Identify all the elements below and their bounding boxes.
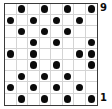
grid-cell (40, 49, 52, 60)
grid-dot (88, 39, 95, 46)
grid-cell (5, 94, 17, 105)
grid-cell (63, 15, 75, 26)
grid-cell (28, 49, 40, 60)
row-label-bottom: 1 (100, 93, 107, 103)
grid-dot (30, 61, 37, 68)
grid-dot (53, 84, 60, 91)
grid-cell (74, 71, 86, 82)
grid-cell (40, 82, 52, 93)
grid-dot (88, 50, 95, 57)
grid-cell (17, 60, 29, 71)
grid-cell (5, 4, 17, 15)
grid-dot (64, 73, 71, 80)
grid-cell (17, 94, 29, 105)
dot-grid (4, 3, 98, 106)
grid-cell (86, 38, 98, 49)
grid-dot (30, 84, 37, 91)
grid-cell (86, 82, 98, 93)
grid-cell (86, 4, 98, 15)
grid-cell (5, 49, 17, 60)
grid-cell (51, 15, 63, 26)
grid-dot (41, 5, 48, 12)
grid-cell (17, 49, 29, 60)
grid-dot (18, 95, 25, 102)
grid-cell (17, 26, 29, 37)
grid-dot (7, 50, 14, 57)
grid-dot (41, 28, 48, 35)
grid-cell (86, 26, 98, 37)
grid-cell (40, 94, 52, 105)
grid-cell (40, 38, 52, 49)
grid-cell (74, 4, 86, 15)
grid-cell (86, 49, 98, 60)
grid-dot (88, 61, 95, 68)
grid-cell (74, 60, 86, 71)
grid-cell (51, 94, 63, 105)
grid-cell (74, 26, 86, 37)
grid-cell (74, 38, 86, 49)
grid-dot (64, 28, 71, 35)
grid-dot (76, 17, 83, 24)
grid-dot (41, 73, 48, 80)
grid-dot (53, 17, 60, 24)
grid-dot (64, 5, 71, 12)
grid-cell (51, 26, 63, 37)
grid-cell (28, 71, 40, 82)
grid-cell (63, 60, 75, 71)
grid-dot (30, 17, 37, 24)
grid-cell (74, 49, 86, 60)
grid-cell (40, 60, 52, 71)
grid-cell (63, 26, 75, 37)
grid-cell (5, 38, 17, 49)
grid-cell (74, 82, 86, 93)
grid-cell (63, 82, 75, 93)
grid-cell (51, 82, 63, 93)
grid-cell (51, 4, 63, 15)
grid-dot (7, 17, 14, 24)
grid-cell (51, 71, 63, 82)
grid-cell (40, 4, 52, 15)
grid-dot (30, 39, 37, 46)
grid-cell (86, 71, 98, 82)
grid-cell (86, 60, 98, 71)
grid-cell (17, 71, 29, 82)
grid-cell (5, 71, 17, 82)
grid-cell (5, 60, 17, 71)
grid-cell (28, 15, 40, 26)
grid-cell (28, 38, 40, 49)
grid-cell (63, 49, 75, 60)
grid-cell (28, 94, 40, 105)
grid-cell (63, 4, 75, 15)
grid-dot (7, 84, 14, 91)
grid-dot (18, 5, 25, 12)
grid-cell (28, 4, 40, 15)
grid-cell (28, 26, 40, 37)
grid-dot (18, 28, 25, 35)
grid-cell (51, 60, 63, 71)
grid-cell (63, 38, 75, 49)
grid-dot (41, 95, 48, 102)
figure-canvas: 9 1 (0, 0, 112, 109)
grid-cell (63, 94, 75, 105)
grid-cell (40, 71, 52, 82)
grid-dot (64, 95, 71, 102)
grid-cell (5, 26, 17, 37)
grid-dot (88, 5, 95, 12)
grid-dot (76, 84, 83, 91)
grid-cell (17, 38, 29, 49)
grid-cell (5, 82, 17, 93)
grid-dot (18, 73, 25, 80)
grid-cell (63, 71, 75, 82)
grid-cell (74, 94, 86, 105)
row-label-top: 9 (100, 3, 107, 13)
grid-cell (40, 15, 52, 26)
grid-dot (53, 39, 60, 46)
grid-cell (5, 15, 17, 26)
grid-dot (53, 61, 60, 68)
grid-cell (74, 15, 86, 26)
grid-cell (17, 4, 29, 15)
grid-cell (17, 82, 29, 93)
grid-cell (40, 26, 52, 37)
grid-dot (76, 50, 83, 57)
grid-cell (28, 60, 40, 71)
